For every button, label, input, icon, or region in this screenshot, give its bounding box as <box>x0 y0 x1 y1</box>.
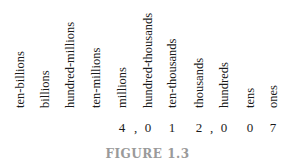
digit-tens: 0 <box>245 120 255 136</box>
label-hundreds: hundreds <box>218 62 231 108</box>
label-ten-millions: ten-millions <box>90 48 103 108</box>
digit-thousands: 2 <box>194 120 204 136</box>
label-ones: ones <box>267 85 280 108</box>
digit-hundreds: 0 <box>219 120 229 136</box>
label-thousands: thousands <box>193 58 206 108</box>
digit-hundred-thousands: 0 <box>143 120 153 136</box>
label-hundred-millions: hundred-millions <box>64 22 77 108</box>
digit-ones: 7 <box>268 120 278 136</box>
label-ten-thousands: ten-thousands <box>166 39 179 108</box>
label-tens: tens <box>244 88 257 108</box>
label-millions: millions <box>116 67 129 108</box>
digit-ten-thousands: 1 <box>167 120 177 136</box>
figure-caption: FIGURE 1.3 <box>0 147 295 161</box>
label-billions: billions <box>39 70 52 108</box>
label-hundred-thousands: hundred-thousands <box>142 13 155 108</box>
comma-separator: , <box>210 120 213 136</box>
digit-millions: 4 <box>117 120 127 136</box>
label-ten-billions: ten-billions <box>14 51 27 108</box>
comma-separator: , <box>134 120 137 136</box>
